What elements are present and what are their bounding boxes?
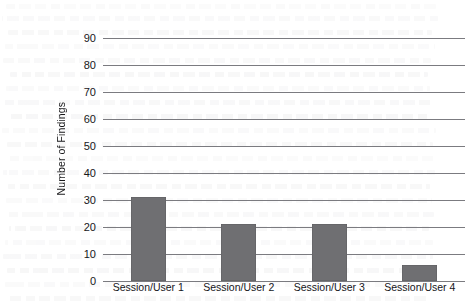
gridline bbox=[103, 38, 465, 39]
gridline bbox=[103, 65, 465, 66]
y-tick-label: 40 bbox=[84, 167, 96, 179]
plot-area: 0102030405060708090 bbox=[103, 38, 465, 281]
gridline bbox=[103, 146, 465, 147]
y-tick-label: 60 bbox=[84, 113, 96, 125]
bar-chart: Number of Findings 0102030405060708090 S… bbox=[40, 16, 402, 291]
gridline bbox=[103, 119, 465, 120]
y-tick-label: 90 bbox=[84, 32, 96, 44]
x-tick-label: Session/User 2 bbox=[203, 281, 274, 293]
y-tick-label: 10 bbox=[84, 248, 96, 260]
gridline bbox=[103, 92, 465, 93]
y-tick-label: 20 bbox=[84, 221, 96, 233]
x-tick-label: Session/User 1 bbox=[113, 281, 184, 293]
bar bbox=[221, 224, 256, 281]
bar bbox=[312, 224, 347, 281]
bar bbox=[131, 197, 166, 281]
y-tick-label: 80 bbox=[84, 59, 96, 71]
x-tick-label: Session/User 4 bbox=[384, 281, 455, 293]
y-tick-label: 50 bbox=[84, 140, 96, 152]
x-tick-label: Session/User 3 bbox=[294, 281, 365, 293]
y-tick-label: 0 bbox=[90, 275, 96, 287]
scan-bleed-line bbox=[8, 296, 428, 301]
y-axis-title-label: Number of Findings bbox=[55, 102, 67, 195]
y-tick-label: 30 bbox=[84, 194, 96, 206]
bar bbox=[402, 265, 437, 281]
scan-bleed-line bbox=[6, 4, 436, 9]
y-tick-label: 70 bbox=[84, 86, 96, 98]
y-axis-title: Number of Findings bbox=[53, 16, 69, 281]
gridline bbox=[103, 173, 465, 174]
